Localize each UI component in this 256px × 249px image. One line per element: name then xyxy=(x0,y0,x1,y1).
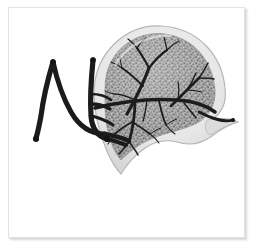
vessel-terminus-upper-left xyxy=(50,59,56,65)
vessel-terminus-lower-left xyxy=(33,136,39,142)
vessel-terminus-upper-mid xyxy=(90,57,96,63)
pedicle-vessel-left xyxy=(36,62,53,138)
figure-stage: Grayscale anatomical illustration of a l… xyxy=(0,0,256,249)
figure-card xyxy=(8,7,245,238)
vessel-terminus-tail xyxy=(231,118,235,122)
vessel-terminus-lower-mid xyxy=(104,136,110,142)
anatomical-illustration xyxy=(9,8,246,239)
